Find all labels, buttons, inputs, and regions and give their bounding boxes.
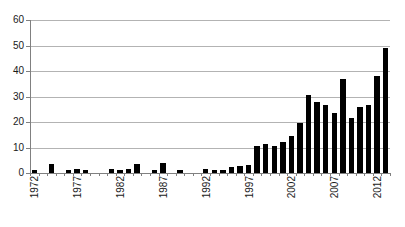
x-axis-tick-label: 1987: [158, 176, 169, 198]
y-axis-tick: [26, 173, 30, 174]
bar: [366, 105, 371, 173]
bar-series: [30, 20, 390, 173]
bar: [272, 146, 277, 173]
bar: [263, 144, 268, 173]
y-axis-tick-label: 20: [0, 117, 24, 127]
x-axis-tick-label: 2012: [372, 176, 383, 198]
y-axis-line: [30, 20, 31, 174]
bar: [49, 164, 54, 173]
y-axis-tick-label: 50: [0, 41, 24, 51]
bar: [357, 107, 362, 173]
y-axis-tick-label: 60: [0, 15, 24, 25]
bar: [349, 118, 354, 173]
x-axis-tick-label: 1972: [29, 176, 40, 198]
x-axis-tick-label: 1982: [115, 176, 126, 198]
bar: [340, 79, 345, 173]
bar: [314, 102, 319, 173]
bar-chart: 0102030405060 19721977198219871992199720…: [0, 0, 405, 227]
bar: [306, 95, 311, 173]
bar: [280, 142, 285, 173]
bar: [254, 146, 259, 173]
y-axis-tick: [26, 97, 30, 98]
bar: [289, 136, 294, 173]
y-axis-tick: [26, 20, 30, 21]
bar: [297, 123, 302, 173]
y-axis-tick: [26, 122, 30, 123]
x-axis-tick-label: 2007: [329, 176, 340, 198]
x-axis-tick-label: 1977: [72, 176, 83, 198]
x-axis-tick-label: 1997: [244, 176, 255, 198]
bar: [246, 165, 251, 173]
bar: [134, 164, 139, 173]
y-axis-tick-label: 30: [0, 92, 24, 102]
bar: [374, 76, 379, 173]
y-axis-tick-label: 10: [0, 143, 24, 153]
bar: [332, 113, 337, 173]
bar: [383, 48, 388, 173]
plot-area: [30, 20, 390, 173]
x-axis-tick-label: 1992: [201, 176, 212, 198]
bar: [237, 166, 242, 173]
bar: [323, 105, 328, 173]
x-axis-labels: 197219771982198719921997200220072012: [0, 176, 405, 227]
x-axis-tick-label: 2002: [286, 176, 297, 198]
y-axis-tick: [26, 46, 30, 47]
bar: [160, 163, 165, 173]
y-axis-tick: [26, 148, 30, 149]
y-axis-tick: [26, 71, 30, 72]
y-axis-tick-label: 40: [0, 66, 24, 76]
